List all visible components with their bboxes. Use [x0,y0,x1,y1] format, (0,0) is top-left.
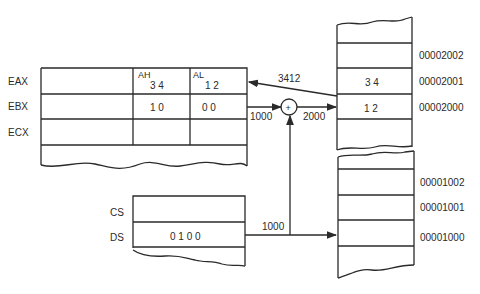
torn-edge [337,146,412,150]
memory-block-lower: 00001002 00001001 00001000 [338,151,465,278]
load-arrow: 3412 [249,73,337,96]
memory-value-00002000: 1 2 [364,103,378,114]
register-label-ecx: ECX [8,127,29,138]
adder-input-label: 1000 [250,111,273,122]
torn-edge [41,162,247,168]
memory-addressing-diagram: EAX EBX ECX AH 3 4 AL 1 2 1 0 0 0 + 1000… [0,0,480,294]
general-register-block: EAX EBX ECX AH 3 4 AL 1 2 1 0 0 0 [8,68,247,168]
torn-edge [133,250,245,266]
memory-address: 00002000 [419,102,464,113]
ah-value: 3 4 [150,80,164,91]
memory-address: 00002001 [419,76,464,87]
memory-value-00002001: 3 4 [365,77,379,88]
al-value: 1 2 [205,80,219,91]
register-label-eax: EAX [8,76,28,87]
ds-value: 0 1 0 0 [170,231,201,242]
memory-address: 00002002 [419,50,464,61]
segment-register-block: CS DS 0 1 0 0 1000 [110,196,336,266]
memory-address: 00001000 [420,232,465,243]
adder-output-label: 2000 [303,111,326,122]
segment-label-ds: DS [110,232,124,243]
bh-value: 1 0 [150,102,164,113]
ah-label: AH [138,70,151,80]
torn-edge [337,17,412,25]
adder: + 1000 2000 [247,99,336,235]
register-label-ebx: EBX [8,101,28,112]
torn-edge [338,265,414,278]
torn-edge [338,151,414,157]
al-label: AL [193,70,204,80]
plus-symbol: + [286,103,291,113]
memory-address: 00001001 [420,202,465,213]
memory-block-upper: 3 4 1 2 00002002 00002001 00002000 [337,17,464,150]
segment-base-label: 1000 [262,221,285,232]
memory-address: 00001002 [420,177,465,188]
segment-label-cs: CS [110,207,124,218]
bl-value: 0 0 [202,102,216,113]
loaded-value-label: 3412 [278,73,301,84]
